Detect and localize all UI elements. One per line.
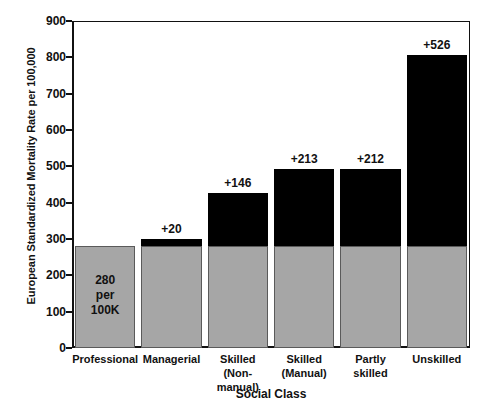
- x-axis-tick-label: Skilled (Manual): [271, 352, 337, 380]
- bar-segment-baseline[interactable]: [274, 246, 334, 348]
- y-axis-tick-label: 0: [36, 341, 66, 355]
- y-axis-tick-label: 600: [36, 123, 66, 137]
- x-axis-tick-label: Partly skilled: [337, 352, 403, 380]
- bar-value-label: +213: [291, 152, 318, 166]
- x-axis-tick-label: Unskilled: [404, 352, 470, 366]
- y-axis-tick-mark: [66, 238, 72, 240]
- bar-group[interactable]: +20: [141, 21, 201, 348]
- y-axis-tick-labels: 0100200300400500600700800900: [34, 0, 66, 413]
- y-axis-tick-mark: [66, 20, 72, 22]
- y-axis-tick-label: 900: [36, 14, 66, 28]
- bar-segment-baseline[interactable]: [208, 246, 268, 348]
- bar-segment-increment[interactable]: [274, 169, 334, 246]
- bar-segment-baseline[interactable]: [340, 246, 400, 348]
- chart-figure: European Standardized Mortality Rate per…: [0, 0, 489, 413]
- y-axis-tick-label: 200: [36, 268, 66, 282]
- bar-segment-increment[interactable]: [208, 193, 268, 246]
- bar-value-label: +20: [161, 222, 181, 236]
- x-axis-tick-labels: ProfessionalManagerialSkilled (Non-manua…: [72, 352, 470, 392]
- bar-value-label: +526: [423, 38, 450, 52]
- bar-segment-baseline[interactable]: [141, 246, 201, 348]
- y-axis-tick-label: 700: [36, 87, 66, 101]
- y-axis-tick-mark: [66, 311, 72, 313]
- bar-group[interactable]: +213: [274, 21, 334, 348]
- bar-group[interactable]: +212: [340, 21, 400, 348]
- bar-segment-baseline[interactable]: [407, 246, 467, 348]
- y-axis-tick-mark: [66, 202, 72, 204]
- y-axis-tick-mark: [66, 347, 72, 349]
- bar-group[interactable]: 280 per 100K: [75, 21, 135, 348]
- bar-value-label: +146: [224, 176, 251, 190]
- y-axis-tick-label: 500: [36, 159, 66, 173]
- bar-segment-increment[interactable]: [141, 239, 201, 246]
- x-axis-title: Social Class: [72, 387, 470, 401]
- y-axis-tick-mark: [66, 56, 72, 58]
- bar-group[interactable]: +146: [208, 21, 268, 348]
- bar-value-label: +212: [357, 152, 384, 166]
- bar-segment-increment[interactable]: [407, 55, 467, 246]
- y-axis-tick-mark: [66, 93, 72, 95]
- baseline-annotation: 280 per 100K: [75, 273, 135, 318]
- x-axis-tick-label: Professional: [72, 352, 138, 366]
- y-axis-tick-label: 100: [36, 305, 66, 319]
- bar-group[interactable]: +526: [407, 21, 467, 348]
- bar-segment-increment[interactable]: [340, 169, 400, 246]
- y-axis-tick-label: 300: [36, 232, 66, 246]
- y-axis-tick-mark: [66, 165, 72, 167]
- y-axis-tick-mark: [66, 274, 72, 276]
- y-axis-tick-mark: [66, 129, 72, 131]
- y-axis-tick-label: 800: [36, 50, 66, 64]
- bars-layer: 280 per 100K+20+146+213+212+526: [72, 21, 470, 348]
- y-axis-tick-label: 400: [36, 196, 66, 210]
- x-axis-tick-label: Managerial: [138, 352, 204, 366]
